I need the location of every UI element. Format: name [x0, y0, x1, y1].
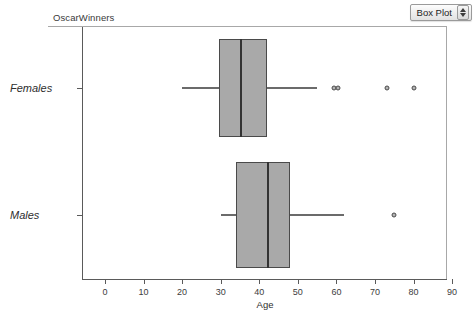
- box-males: [236, 162, 290, 268]
- x-tick-label-0: 0: [102, 287, 107, 297]
- caret-up-icon[interactable]: [460, 8, 466, 12]
- box-plot-panel: OscarWinners Box Plot 010203040506070809…: [0, 0, 476, 314]
- y-tick-females: [77, 88, 83, 89]
- outlier-females-1: [336, 86, 341, 91]
- x-tick-60: [336, 279, 337, 284]
- x-tick-label-40: 40: [254, 287, 264, 297]
- plot-right-border: [446, 27, 447, 279]
- box-females: [219, 39, 267, 137]
- x-tick-label-70: 70: [370, 287, 380, 297]
- x-tick-label-80: 80: [409, 287, 419, 297]
- x-axis-title: Age: [257, 299, 274, 310]
- x-tick-90: [452, 279, 453, 284]
- x-tick-label-50: 50: [293, 287, 303, 297]
- stepper-buttons[interactable]: [457, 5, 469, 20]
- x-axis-line: [82, 279, 447, 280]
- y-tick-males: [77, 215, 83, 216]
- plot-type-label: Box Plot: [417, 7, 457, 18]
- x-tick-70: [375, 279, 376, 284]
- category-label-females: Females: [10, 82, 52, 94]
- category-label-males: Males: [10, 209, 39, 221]
- plot-type-stepper[interactable]: Box Plot: [410, 4, 472, 21]
- x-tick-80: [414, 279, 415, 284]
- x-tick-0: [105, 279, 106, 284]
- median-males: [267, 162, 269, 268]
- x-tick-40: [259, 279, 260, 284]
- x-tick-label-20: 20: [177, 287, 187, 297]
- x-tick-10: [144, 279, 145, 284]
- header-divider: [48, 26, 447, 27]
- x-tick-label-90: 90: [447, 287, 457, 297]
- y-axis-line: [82, 27, 83, 279]
- median-females: [240, 39, 242, 137]
- dataset-title: OscarWinners: [53, 12, 117, 23]
- caret-down-icon[interactable]: [460, 13, 466, 17]
- outlier-females-2: [384, 86, 389, 91]
- x-tick-30: [221, 279, 222, 284]
- x-tick-20: [182, 279, 183, 284]
- outlier-males-0: [392, 213, 397, 218]
- x-tick-label-10: 10: [139, 287, 149, 297]
- outlier-females-3: [411, 86, 416, 91]
- x-tick-label-30: 30: [216, 287, 226, 297]
- x-tick-label-60: 60: [331, 287, 341, 297]
- x-tick-50: [298, 279, 299, 284]
